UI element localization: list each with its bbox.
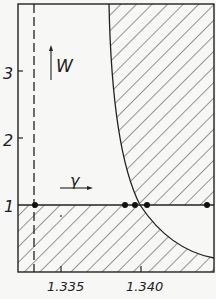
speck: [60, 215, 62, 217]
y-tick-label-1: 1: [4, 197, 14, 216]
y-tick-label-3: 3: [3, 64, 13, 83]
phase-diagram: W γ 3 2 1 1.335 1.340: [0, 0, 216, 299]
gamma-axis-label: γ: [70, 171, 81, 190]
w-axis-label: W: [56, 56, 74, 76]
x-tick-label-1340: 1.340: [126, 279, 163, 294]
forbidden-region-right: [109, 4, 214, 205]
x-tick-label-1335: 1.335: [47, 279, 84, 294]
y-tick-label-2: 2: [3, 131, 13, 150]
